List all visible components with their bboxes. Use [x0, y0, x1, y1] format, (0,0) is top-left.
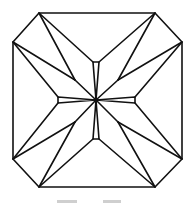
facet-edge	[75, 100, 96, 122]
facet-edge	[96, 80, 118, 100]
facet-edge	[135, 42, 182, 97]
top-facet	[93, 62, 99, 100]
facet-edge	[39, 122, 75, 187]
left-facet	[58, 97, 96, 103]
facet-edge	[39, 13, 93, 62]
facet-edge	[39, 13, 75, 80]
center-point	[94, 98, 99, 103]
facet-edge	[118, 13, 155, 80]
facet-edge	[39, 139, 93, 187]
facet-edge	[75, 80, 96, 100]
right-facet	[96, 97, 135, 103]
culet-dot	[94, 98, 99, 103]
facet-edge	[13, 42, 75, 80]
caption-fragment	[103, 200, 121, 203]
facet-edge	[99, 139, 155, 187]
facet-edge	[13, 103, 58, 159]
bottom-facet	[93, 100, 99, 139]
facet-edge	[99, 13, 155, 62]
facet-edge	[13, 42, 58, 97]
caption-fragment	[57, 200, 77, 203]
facet-edge	[13, 122, 75, 159]
facet-edge	[135, 103, 182, 159]
facet-edge	[118, 122, 182, 159]
facet-edge	[96, 100, 118, 122]
facet-edge	[118, 122, 155, 187]
gem-cut-diagram	[0, 0, 194, 203]
